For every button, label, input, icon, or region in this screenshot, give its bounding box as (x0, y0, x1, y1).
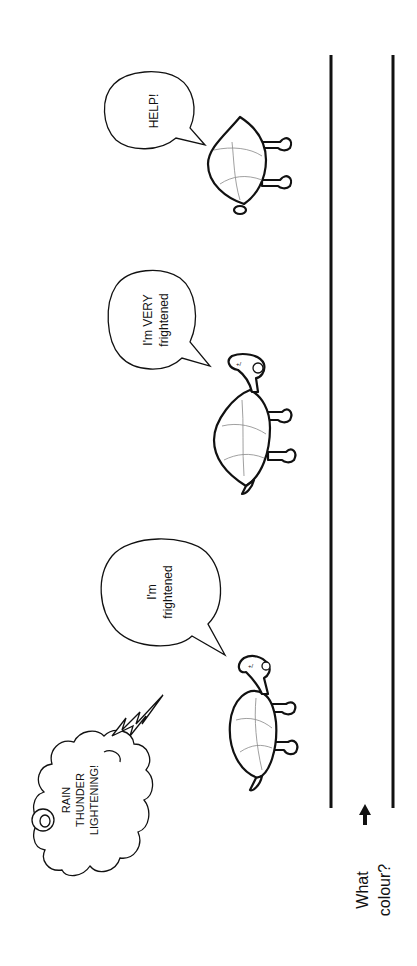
bubble-2-line-2: frightened (157, 293, 171, 346)
worksheet-canvas: What colour? RAIN THUNDER LIGHTENING! I'… (0, 0, 417, 966)
turtle-tail (234, 206, 246, 214)
bubble-3-line-1: HELP! (147, 94, 161, 129)
bubble-2-line-1: I'm VERY (141, 294, 155, 345)
turtle-frightened: +/ (230, 656, 298, 790)
thought-line-1: RAIN (60, 787, 72, 813)
speech-bubble-frightened: I'm frightened (101, 539, 225, 655)
bubble-1-line-2: frightened (161, 565, 175, 618)
arrow-up-icon (359, 804, 371, 825)
turtle-tail (250, 776, 262, 790)
thought-line-2: THUNDER (74, 773, 86, 827)
speech-bubble-very-frightened: I'm VERY frightened (108, 270, 210, 369)
turtle-shell (208, 117, 266, 204)
thought-line-3: LIGHTENING! (88, 765, 100, 835)
bubble-1-line-1: I'm (145, 584, 159, 600)
turtle-shell (230, 691, 277, 778)
thought-circle-small (40, 815, 50, 827)
colour-prompt-line-1: What (354, 871, 371, 909)
lightning-icon (112, 695, 163, 736)
turtle-hiding (208, 117, 291, 214)
colour-prompt: What colour? (354, 864, 393, 917)
turtle-legs (268, 410, 295, 463)
svg-text:+/: +/ (248, 663, 254, 669)
svg-text:+/: +/ (236, 361, 242, 367)
speech-bubble-help: HELP! (104, 72, 205, 149)
colour-prompt-line-2: colour? (376, 864, 393, 917)
turtle-very-frightened: +/ (214, 354, 295, 494)
thought-cloud: RAIN THUNDER LIGHTENING! (32, 730, 153, 875)
